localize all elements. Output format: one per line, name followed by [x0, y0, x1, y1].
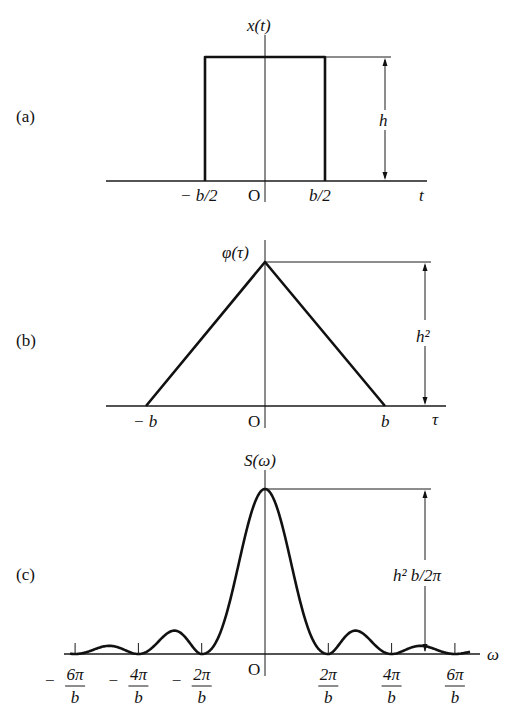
svg-text:2π: 2π — [320, 665, 338, 684]
tick-label: −4πb — [108, 665, 148, 707]
panel-a-height-label: h — [379, 111, 388, 130]
panel-b-height-label: h² — [416, 327, 431, 346]
svg-text:−: − — [172, 671, 182, 690]
panel-a-tick-pos: b/2 — [309, 186, 331, 205]
panel-c-tick-origin: O — [248, 660, 260, 679]
arrow-down-icon — [423, 397, 428, 405]
svg-text:b: b — [324, 688, 333, 707]
panel-b-tick-origin: O — [248, 412, 260, 431]
svg-text:4π: 4π — [383, 665, 401, 684]
panel-b-tag: (b) — [16, 331, 36, 350]
panel-a-tag: (a) — [16, 107, 35, 126]
panel-a-xlabel: t — [419, 186, 425, 205]
panel-c-xlabel: ω — [487, 645, 499, 664]
svg-text:4π: 4π — [130, 665, 148, 684]
svg-text:6π: 6π — [446, 665, 464, 684]
svg-text:−: − — [108, 671, 118, 690]
tick-label: 2πb — [318, 665, 338, 707]
panel-a-ylabel: x(t) — [246, 16, 271, 35]
panel-b-tick-pos: b — [381, 412, 390, 431]
tick-label: 6πb — [445, 665, 465, 707]
arrow-down-icon — [383, 172, 388, 180]
panel-b: (b) φ(τ) τ h² − b O b — [16, 240, 446, 431]
svg-text:2π: 2π — [193, 665, 211, 684]
panel-b-ylabel: φ(τ) — [222, 243, 249, 262]
arrow-up-icon — [383, 58, 388, 66]
tick-label: −6πb — [45, 665, 85, 707]
panel-c: (c) S(ω) ω h² b/2π O −6πb−4πb−2πb2πb4πb6… — [16, 451, 499, 707]
panel-a-tick-origin: O — [248, 186, 260, 205]
svg-text:6π: 6π — [67, 665, 85, 684]
arrow-down-icon — [423, 644, 428, 652]
panel-a-tick-neg: − b/2 — [180, 186, 218, 205]
panel-b-tick-neg: − b — [133, 412, 157, 431]
panel-c-ylabel: S(ω) — [244, 451, 276, 470]
tick-label: 4πb — [382, 665, 402, 707]
panel-c-tag: (c) — [16, 565, 35, 584]
panel-c-height-label: h² b/2π — [393, 566, 442, 585]
arrow-up-icon — [423, 263, 428, 271]
svg-text:b: b — [134, 688, 143, 707]
panel-b-xlabel: τ — [432, 410, 439, 429]
arrow-up-icon — [423, 490, 428, 498]
figure: (a) x(t) t h − b/2 O b/2 (b) φ(τ) τ h² −… — [0, 0, 520, 720]
svg-text:−: − — [45, 671, 55, 690]
svg-text:b: b — [451, 688, 460, 707]
tick-label: −2πb — [172, 665, 212, 707]
svg-text:b: b — [71, 688, 80, 707]
svg-text:b: b — [197, 688, 206, 707]
panel-a: (a) x(t) t h − b/2 O b/2 — [16, 16, 427, 205]
svg-text:b: b — [387, 688, 396, 707]
